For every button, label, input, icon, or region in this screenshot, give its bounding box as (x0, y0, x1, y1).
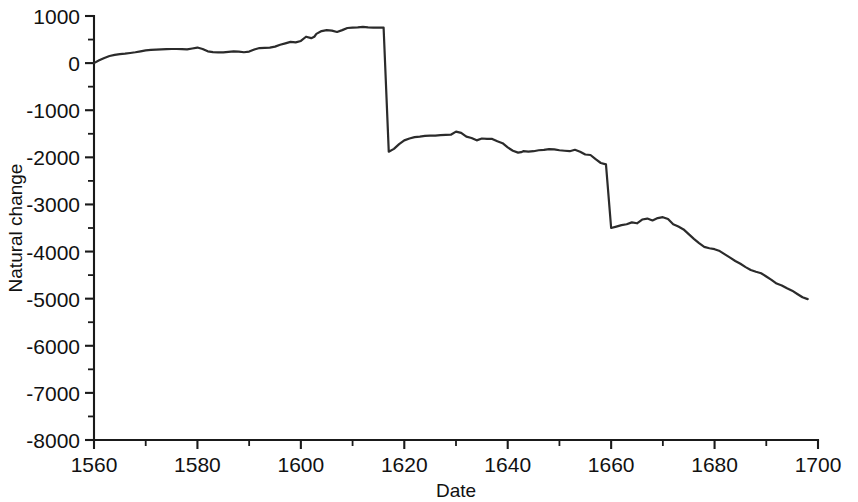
x-tick-label: 1700 (795, 453, 842, 476)
y-tick-label: -3000 (26, 193, 80, 216)
chart-container: 10000-1000-2000-3000-4000-5000-6000-7000… (0, 0, 858, 502)
x-tick-label: 1580 (174, 453, 221, 476)
y-axis-tick-labels: 10000-1000-2000-3000-4000-5000-6000-7000… (26, 5, 80, 452)
x-tick-label: 1660 (588, 453, 635, 476)
data-series-line (94, 27, 808, 299)
y-axis-title: Natural change (5, 164, 26, 293)
y-tick-label: -1000 (26, 99, 80, 122)
x-tick-label: 1680 (691, 453, 738, 476)
x-tick-label: 1640 (484, 453, 531, 476)
y-tick-label: -2000 (26, 146, 80, 169)
x-tick-label: 1560 (71, 453, 118, 476)
y-tick-label: 1000 (33, 5, 80, 28)
y-axis-ticks (85, 16, 94, 440)
x-tick-label: 1620 (381, 453, 428, 476)
line-chart: 10000-1000-2000-3000-4000-5000-6000-7000… (0, 0, 858, 502)
y-tick-label: -4000 (26, 241, 80, 264)
y-tick-label: -5000 (26, 288, 80, 311)
y-tick-label: -7000 (26, 382, 80, 405)
x-axis-tick-labels: 15601580160016201640166016801700 (71, 453, 842, 476)
x-axis-title: Date (436, 480, 476, 501)
x-tick-label: 1600 (277, 453, 324, 476)
x-axis-ticks (94, 440, 818, 449)
y-tick-label: -8000 (26, 429, 80, 452)
y-tick-label: 0 (68, 52, 80, 75)
y-tick-label: -6000 (26, 335, 80, 358)
